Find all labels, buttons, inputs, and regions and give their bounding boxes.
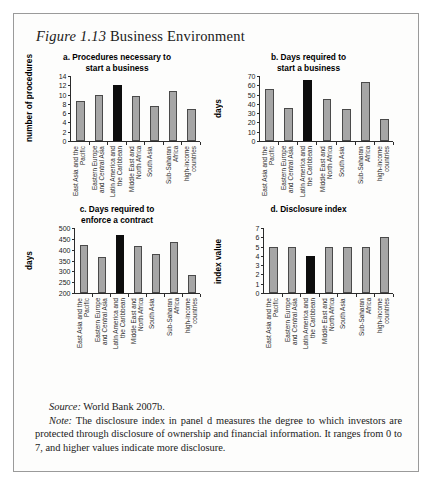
y-tick-label: 500 bbox=[59, 225, 71, 232]
y-tick bbox=[261, 256, 264, 257]
panel-title-line: d. Disclosure index bbox=[211, 204, 406, 215]
note-line: Note: The disclosure index in panel d me… bbox=[35, 414, 402, 455]
y-tick bbox=[257, 95, 260, 96]
x-tick bbox=[319, 294, 320, 297]
y-tick-label: 10 bbox=[248, 128, 256, 135]
x-category-label: South Asia bbox=[146, 146, 153, 200]
x-tick bbox=[163, 142, 164, 145]
bars-group bbox=[71, 76, 200, 141]
x-category-label: Latin America and the Caribbean bbox=[302, 298, 316, 352]
x-category-label: Middle East and North Africa bbox=[321, 298, 335, 352]
source-label: Source: bbox=[49, 401, 81, 412]
bar bbox=[380, 237, 389, 293]
bar bbox=[152, 254, 160, 293]
y-tick-label: 5 bbox=[256, 243, 260, 250]
x-tick bbox=[336, 142, 337, 145]
x-category-label: high-income countries bbox=[183, 146, 197, 200]
y-tick-label: 8 bbox=[63, 100, 67, 107]
x-tick bbox=[297, 142, 298, 145]
x-category-label: Middle East and North Africa bbox=[319, 146, 333, 200]
bar bbox=[265, 89, 274, 141]
bar bbox=[170, 242, 178, 293]
x-tick bbox=[89, 142, 90, 145]
y-tick-label: 2 bbox=[256, 271, 260, 278]
y-tick-label: 300 bbox=[59, 268, 71, 275]
x-category-label: Latin America and the Caribbean bbox=[299, 146, 313, 200]
y-tick-label: 0 bbox=[256, 290, 260, 297]
x-tick bbox=[200, 294, 201, 297]
bar bbox=[269, 247, 278, 293]
x-category-label: Eastern Europe and Central Asia bbox=[284, 298, 298, 352]
y-tick bbox=[257, 85, 260, 86]
x-category-label: Middle East and North Africa bbox=[128, 146, 142, 200]
y-tick-label: 6 bbox=[256, 234, 260, 241]
y-tick-label: 14 bbox=[59, 73, 67, 80]
x-tick bbox=[393, 294, 394, 297]
y-tick-label: 450 bbox=[59, 235, 71, 242]
y-tick-label: 12 bbox=[59, 82, 67, 89]
bar bbox=[343, 247, 352, 293]
x-category-label: Eastern Europe and Central Asia bbox=[91, 146, 105, 200]
x-category-label: East Asia and the Pacific bbox=[265, 298, 279, 352]
x-category-label: Eastern Europe and Central Asia bbox=[280, 146, 294, 200]
x-category-label: Middle East and North Africa bbox=[130, 298, 144, 352]
x-tick bbox=[356, 294, 357, 297]
y-tick bbox=[68, 141, 71, 142]
bars-group bbox=[264, 228, 393, 293]
panel-title-line: start a business bbox=[22, 63, 212, 74]
y-tick bbox=[68, 76, 71, 77]
y-tick bbox=[68, 113, 71, 114]
x-category-label: Eastern Europe and Central Asia bbox=[94, 298, 108, 352]
y-tick bbox=[72, 271, 75, 272]
x-category-label: Latin America and the Caribbean bbox=[112, 298, 126, 352]
chart-panel-b: b. Days required tostart a business01020… bbox=[211, 52, 406, 202]
y-tick-label: 1 bbox=[256, 280, 260, 287]
x-tick bbox=[144, 142, 145, 145]
bar bbox=[169, 91, 178, 141]
x-tick bbox=[126, 142, 127, 145]
y-tick-label: 20 bbox=[248, 119, 256, 126]
y-tick bbox=[261, 293, 264, 294]
y-tick bbox=[68, 104, 71, 105]
x-tick bbox=[107, 142, 108, 145]
x-category-label: East Asia and the Pacific bbox=[261, 146, 275, 200]
y-axis-label-c: days bbox=[24, 228, 34, 294]
y-tick-label: 3 bbox=[256, 262, 260, 269]
bars-group bbox=[260, 76, 393, 141]
y-tick-label: 30 bbox=[248, 110, 256, 117]
x-tick bbox=[146, 294, 147, 297]
y-tick-label: 40 bbox=[248, 100, 256, 107]
y-tick bbox=[257, 113, 260, 114]
plot-area-a: 02468101214 bbox=[70, 76, 200, 142]
source-text: World Bank 2007b. bbox=[83, 401, 164, 412]
x-category-label: Latin America and the Caribbean bbox=[109, 146, 123, 200]
y-tick bbox=[261, 228, 264, 229]
x-category-label: East Asia and the Pacific bbox=[76, 298, 90, 352]
x-category-label: high-income countries bbox=[184, 298, 198, 352]
x-tick bbox=[300, 294, 301, 297]
y-tick bbox=[257, 76, 260, 77]
bar bbox=[116, 235, 124, 294]
y-axis-label-a: number of procedures bbox=[24, 76, 34, 142]
y-tick bbox=[257, 141, 260, 142]
bar bbox=[95, 95, 104, 141]
y-tick bbox=[72, 282, 75, 283]
y-tick-label: 250 bbox=[59, 279, 71, 286]
panel-title-line: c. Days required to bbox=[22, 204, 212, 215]
x-category-label: Sub-Saharan Africa bbox=[165, 146, 179, 200]
bar bbox=[113, 85, 122, 141]
x-tick bbox=[182, 294, 183, 297]
x-tick bbox=[200, 142, 201, 145]
x-category-label: East Asia and the Pacific bbox=[72, 146, 86, 200]
y-tick-label: 70 bbox=[248, 73, 256, 80]
chart-panel-d: d. Disclosure index01234567index valueEa… bbox=[211, 204, 406, 354]
bar bbox=[342, 109, 351, 141]
bar bbox=[150, 106, 159, 141]
x-tick bbox=[337, 294, 338, 297]
figure-title: Figure 1.13 Business Environment bbox=[36, 28, 245, 45]
y-tick bbox=[68, 122, 71, 123]
x-category-label: high-income countries bbox=[376, 298, 390, 352]
y-tick bbox=[261, 274, 264, 275]
x-tick bbox=[110, 294, 111, 297]
x-category-label: Sub-Saharan Africa bbox=[357, 146, 371, 200]
